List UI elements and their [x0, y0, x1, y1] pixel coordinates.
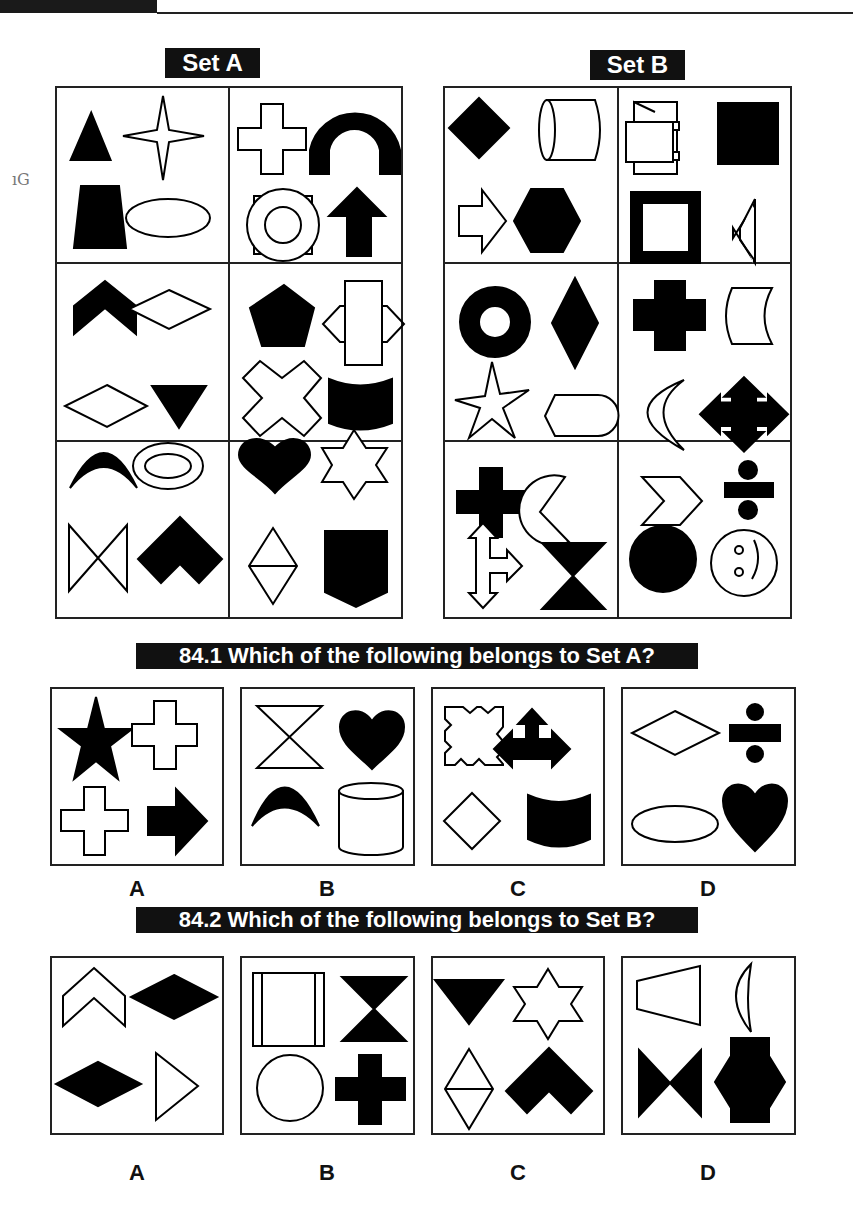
filled-bowtie-icon: [639, 1050, 701, 1116]
thick-square-frame-icon: [631, 192, 700, 263]
outline-cross-icon: [61, 787, 128, 855]
margin-note: ıG: [12, 170, 30, 189]
outline-cylinder-icon: [339, 783, 403, 855]
q2-option-b-shapes: [242, 958, 417, 1137]
filled-plus-icon: [336, 1055, 405, 1124]
filled-crescent-arc-icon: [252, 788, 319, 827]
set-b-grid: [443, 86, 792, 619]
header-bar: [0, 0, 157, 13]
outline-circle-icon: [257, 1055, 323, 1121]
filled-cylinder-curved-icon: [528, 795, 590, 847]
filled-hourglass-icon: [542, 543, 605, 609]
outline-three-way-arrow-icon: [469, 523, 522, 608]
q1-option-b[interactable]: [240, 687, 415, 866]
outline-tab-shape-icon: [545, 395, 619, 436]
q1-option-b-shapes: [242, 689, 417, 868]
filled-pentagon-icon: [250, 285, 314, 346]
outline-ellipse-icon: [126, 199, 210, 237]
set-a-shapes: [57, 88, 405, 621]
q1-option-a[interactable]: [50, 687, 224, 866]
filled-down-triangle-icon: [435, 980, 503, 1024]
outline-pacman-icon: [519, 475, 569, 545]
header-rule: [157, 12, 853, 14]
outline-cross-icon: [238, 104, 306, 174]
outline-ellipse-icon: [632, 806, 718, 842]
filled-heart-icon: [239, 439, 310, 493]
filled-triangle-icon: [71, 113, 111, 160]
q2-option-d-shapes: [623, 958, 798, 1137]
outline-right-arrow-icon: [459, 190, 506, 252]
set-a-label: Set A: [165, 48, 260, 78]
filled-heart-icon: [340, 711, 404, 769]
filled-octo-cross-icon: [715, 1038, 785, 1122]
set-a-grid: [55, 86, 403, 619]
filled-diamond-icon: [449, 98, 509, 158]
outline-right-triangle-icon: [156, 1053, 198, 1120]
q1-option-c[interactable]: [431, 687, 605, 866]
outline-crescent-moon-icon: [648, 380, 685, 450]
question-84-2: 84.2 Which of the following belongs to S…: [136, 907, 698, 933]
outline-six-point-star-icon: [322, 430, 387, 499]
outline-rhombus-icon: [65, 385, 147, 427]
filled-arch-icon: [310, 114, 400, 174]
outline-cylinder-horizontal-icon: [539, 100, 600, 160]
filled-divide-sign-icon: [730, 704, 780, 762]
q1-option-a-shapes: [52, 689, 226, 868]
q1-option-d-letter: D: [688, 876, 728, 902]
outline-five-point-star-icon: [455, 362, 529, 438]
outline-rhombus-icon: [129, 290, 210, 329]
q1-option-d[interactable]: [621, 687, 796, 866]
q2-option-c-shapes: [433, 958, 607, 1137]
q2-option-a[interactable]: [50, 956, 224, 1135]
outline-concave-rect-icon: [726, 288, 772, 344]
q1-option-a-letter: A: [117, 876, 157, 902]
filled-crescent-arc-icon: [70, 453, 137, 488]
outline-notched-square-icon: [445, 707, 503, 765]
filled-chevron-thick-icon: [138, 517, 222, 583]
outline-bowtie-icon: [69, 525, 127, 591]
filled-shield-icon: [325, 531, 387, 607]
filled-heart-icon: [723, 784, 787, 851]
filled-tall-rhombus-icon: [552, 278, 598, 368]
filled-hourglass-icon: [342, 977, 406, 1041]
outline-rect-side-points-icon: [323, 281, 404, 365]
filled-circle-icon: [630, 526, 696, 592]
outline-six-point-star-icon: [514, 969, 582, 1039]
outline-barred-square-icon: [253, 973, 324, 1046]
outline-chevron-icon: [63, 968, 125, 1026]
filled-right-arrow-icon: [148, 789, 207, 854]
q2-option-a-shapes: [52, 958, 226, 1137]
outline-half-moon-icon: [736, 964, 751, 1032]
q2-option-a-letter: A: [117, 1160, 157, 1186]
filled-trapezoid-icon: [74, 186, 126, 248]
outline-trapezoid-icon: [637, 966, 700, 1025]
outline-rhombus-icon: [632, 711, 719, 755]
filled-cylinder-curved-icon: [329, 379, 392, 430]
q2-option-d[interactable]: [621, 956, 796, 1135]
q2-option-b-letter: B: [307, 1160, 347, 1186]
filled-chevron-icon: [74, 281, 136, 334]
outline-scroll-icon: [626, 102, 679, 174]
filled-up-arrow-icon: [329, 188, 385, 256]
outline-smiley-icon: [711, 530, 777, 596]
filled-rhombus-icon: [56, 1062, 141, 1106]
q1-option-d-shapes: [623, 689, 798, 868]
set-b-shapes: [445, 88, 794, 621]
outline-x-cross-icon: [243, 361, 321, 436]
q2-option-b[interactable]: [240, 956, 415, 1135]
filled-chevron-thick-icon: [506, 1048, 592, 1113]
filled-four-way-arrow-icon: [700, 377, 788, 451]
outline-hourglass-icon: [257, 706, 322, 768]
outline-cross-icon: [132, 701, 197, 769]
filled-plus-icon: [457, 468, 525, 537]
outline-chevron-right-icon: [642, 477, 702, 525]
filled-five-point-star-icon: [60, 697, 132, 779]
q2-option-d-letter: D: [688, 1160, 728, 1186]
q1-option-c-letter: C: [498, 876, 538, 902]
filled-hexagon-icon: [514, 189, 580, 252]
q2-option-c[interactable]: [431, 956, 605, 1135]
set-b-label: Set B: [590, 50, 685, 80]
filled-divide-sign-icon: [725, 461, 773, 519]
filled-three-way-arrow-icon: [494, 709, 570, 767]
outline-four-point-star-icon: [123, 96, 204, 180]
